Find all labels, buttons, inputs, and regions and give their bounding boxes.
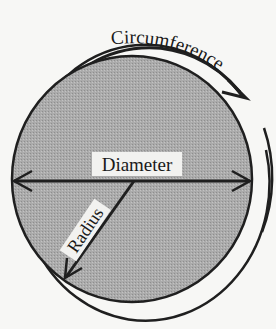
diameter-label: Diameter — [102, 154, 173, 175]
circle-parts-diagram: Diameter Radius Circumference — [0, 0, 276, 329]
circle-area — [12, 56, 252, 302]
circumference-arrowhead-icon — [222, 80, 246, 98]
